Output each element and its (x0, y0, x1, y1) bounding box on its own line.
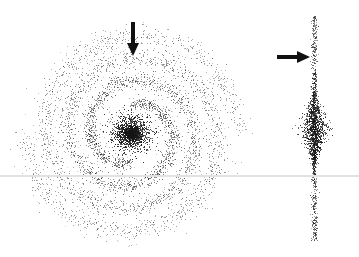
down-arrow-icon (127, 22, 139, 56)
arrows-layer (0, 0, 359, 257)
right-arrow-icon (277, 51, 310, 63)
galaxy-figure (0, 0, 359, 257)
